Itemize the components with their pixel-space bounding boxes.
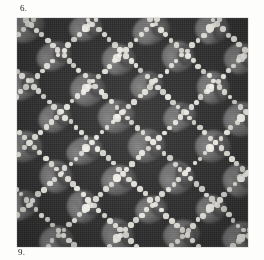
lattice-dot [217,197,223,203]
lattice-dot [169,63,175,69]
lattice-dot [141,130,146,135]
lattice-dot [109,99,114,104]
figure-number-bottom: 9. [18,248,25,259]
lattice-dot [32,134,38,140]
lattice-dot [201,33,206,38]
lattice-dot [228,125,233,130]
lattice-dot [58,172,63,177]
lattice-dot [76,68,81,73]
lattice-dot [91,79,96,84]
lattice-dot [165,94,170,99]
lattice-dot [221,192,226,197]
lattice-dot [49,119,55,125]
lattice-dot [66,222,72,228]
lattice-dot [125,116,129,120]
lattice-dot [176,177,181,182]
lattice-dot [126,104,131,109]
lattice-dot [217,18,222,22]
lattice-dot [174,223,179,228]
lattice-dot [133,217,139,223]
lattice-dot [94,18,99,22]
lattice-dot [92,84,98,90]
lattice-dot [174,59,178,63]
lattice-dot [226,212,231,217]
lattice-dot [50,59,55,64]
lattice-dot [170,100,176,106]
lattice-dot [224,151,229,156]
lattice-dot [226,68,231,73]
lattice-dot [202,130,207,135]
lattice-dot [153,78,158,83]
lattice-dot [190,238,195,243]
lattice-dot [65,42,71,48]
lattice-dot [44,124,50,130]
lattice-dot [144,207,148,211]
lattice-dot [163,32,168,37]
lattice-dot [74,186,80,192]
lattice-dot [179,53,184,58]
lattice-center-dot [113,114,120,121]
lattice-dot [219,145,225,151]
lattice-dot [75,93,81,99]
lattice-dot [72,218,77,223]
lattice-dot [139,32,144,37]
lattice-dot [56,228,61,233]
lattice-dot [190,223,196,229]
lattice-dot [96,27,101,32]
lattice-dot [59,109,64,114]
lattice-dot [234,161,239,166]
lattice-dot [107,218,113,224]
lattice-center-dot [206,144,213,151]
lattice-dot [39,213,44,218]
lattice-dot [175,239,180,244]
lattice-dot [35,73,40,78]
lattice-center-dot [82,84,89,91]
lattice-dot [196,217,201,222]
lattice-dot [236,42,241,47]
lattice-dot [117,227,122,232]
lattice-dot [37,150,42,155]
lattice-dot [185,53,191,59]
lattice-dot [186,167,191,172]
lattice-dot [195,64,201,70]
lattice-center-dot [237,54,244,61]
pattern-canvas [17,18,248,247]
lattice-dot [222,89,227,94]
lattice-dot [112,42,117,47]
lattice-dot [173,162,178,167]
lattice-dot [137,186,143,192]
lattice-dot [103,186,109,192]
lattice-dot [94,135,99,140]
lattice-dot [107,244,112,247]
lattice-dot [135,125,140,130]
lattice-dot [47,181,53,187]
lattice-dot [22,135,27,140]
lattice-dot [155,196,160,201]
lattice-dot [145,74,150,79]
lattice-dot [158,74,163,79]
lattice-dot [220,26,226,32]
lattice-dot [124,167,129,172]
lattice-dot [107,37,112,42]
lattice-dot [176,105,181,110]
lattice-dot [25,21,31,27]
lattice-dot [123,53,129,59]
lattice-dot [102,32,107,37]
lattice-center-dot [82,204,89,211]
lattice-dot [69,119,74,124]
lattice-dot [169,243,174,247]
lattice-dot [26,203,31,208]
lattice-dot [96,208,101,213]
lattice-dot [65,176,71,182]
lattice-center-dot [237,234,244,241]
lattice-dot [105,125,109,129]
lattice-dot [233,182,238,187]
lattice-dot [129,120,134,125]
lattice-dot [143,191,148,196]
lattice-dot [45,38,51,44]
lattice-dot [17,152,21,157]
lattice-dot [179,48,184,53]
lattice-dot [20,207,25,212]
lattice-dot [41,94,46,99]
figure-number-top: 6. [20,3,27,13]
